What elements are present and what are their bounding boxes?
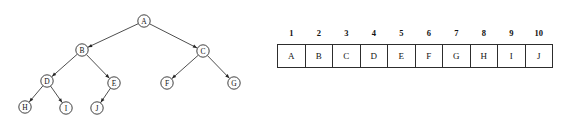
arrow-head-icon — [88, 44, 93, 47]
tree-node-b: B — [76, 44, 88, 56]
tree-edge-d-to-b — [52, 54, 78, 77]
tree-node-f: F — [161, 77, 173, 89]
tree-node-a: A — [138, 15, 150, 27]
arrow-head-icon — [58, 98, 62, 102]
array-cell: G — [443, 45, 471, 68]
array-cell: E — [388, 45, 416, 68]
array-index-header: 2 — [305, 26, 333, 45]
array-index-header: 3 — [333, 26, 361, 45]
tree-node-label: E — [112, 79, 117, 88]
array-cell: J — [525, 45, 553, 68]
array-index-header: 10 — [525, 26, 553, 45]
array-cell: I — [498, 45, 526, 68]
tree-node-label: B — [79, 46, 84, 55]
tree-node-label: H — [22, 103, 28, 112]
array-index-header: 8 — [470, 26, 498, 45]
array-index-header: 7 — [443, 26, 471, 45]
tree-node-c: C — [197, 45, 209, 57]
tree-edge-e-to-b — [86, 54, 109, 78]
tree-node-label: C — [200, 47, 205, 56]
tree-edge-b-to-a — [88, 24, 139, 48]
array-index-header: 4 — [360, 26, 388, 45]
array-index-header: 9 — [498, 26, 526, 45]
array-panel: 12345678910 ABCDEFGHIJ — [277, 26, 554, 68]
tree-edge-c-to-a — [150, 24, 198, 48]
arrow-head-icon — [101, 98, 105, 102]
arrow-head-icon — [193, 45, 198, 48]
tree-node-h: H — [19, 101, 31, 113]
tree-node-label: F — [165, 79, 169, 88]
array-index-header: 6 — [415, 26, 443, 45]
tree-edge-f-to-c — [172, 55, 199, 79]
tree-node-label: J — [96, 104, 99, 113]
array-cell: H — [470, 45, 498, 68]
tree-node-g: G — [228, 77, 240, 89]
array-cell: A — [278, 45, 306, 68]
tree-node-e: E — [108, 77, 120, 89]
tree-node-label: A — [141, 17, 147, 26]
tree-node-label: D — [44, 77, 50, 86]
tree-node-label: G — [231, 79, 237, 88]
figure-canvas: ABCDEFGHIJ 12345678910 ABCDEFGHIJ — [0, 0, 566, 124]
array-index-header: 5 — [388, 26, 416, 45]
array-cell: B — [305, 45, 333, 68]
array-cell: D — [360, 45, 388, 68]
array-cell: F — [415, 45, 443, 68]
tree-node-d: D — [41, 75, 53, 87]
tree-node-j: J — [91, 102, 103, 114]
tree-edge-g-to-c — [207, 55, 229, 78]
tree-diagram: ABCDEFGHIJ — [0, 0, 283, 124]
tree-node-layer: ABCDEFGHIJ — [19, 15, 240, 114]
array-index-row: 12345678910 — [278, 26, 553, 45]
array-value-row: ABCDEFGHIJ — [278, 45, 553, 68]
tree-node-i: I — [60, 102, 72, 114]
array-table: 12345678910 ABCDEFGHIJ — [277, 26, 553, 68]
tree-edge-layer — [29, 24, 230, 103]
array-cell: C — [333, 45, 361, 68]
array-index-header: 1 — [278, 26, 306, 45]
